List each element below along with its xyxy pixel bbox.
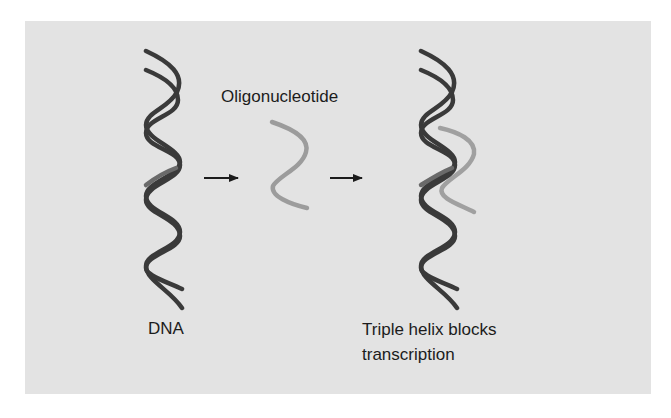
dna-label: DNA [148, 316, 184, 341]
triple-helix-label-line2: transcription [362, 342, 496, 367]
triple-helix-label-line1: Triple helix blocks [362, 317, 496, 342]
oligonucleotide-strand-icon [272, 122, 307, 208]
dna-double-helix-icon [146, 51, 182, 308]
oligonucleotide-label: Oligonucleotide [221, 84, 338, 109]
triple-helix-icon [421, 51, 474, 308]
diagram-art [0, 0, 671, 418]
triple-helix-label: Triple helix blocks transcription [362, 317, 496, 367]
